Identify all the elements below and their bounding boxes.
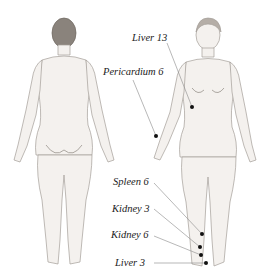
label-kidney-3: Kidney 3 (112, 203, 150, 214)
back-view-figure (14, 18, 114, 264)
dot-kidney-3[interactable] (198, 245, 202, 249)
front-neck (202, 48, 214, 57)
dot-liver-3[interactable] (204, 261, 208, 265)
front-legs (182, 157, 237, 266)
front-view-figure (154, 18, 256, 266)
front-torso (180, 59, 237, 158)
label-spleen-6: Spleen 6 (113, 176, 149, 187)
label-liver-13: Liver 13 (132, 32, 167, 43)
back-legs (38, 155, 93, 264)
dot-pericardium-6[interactable] (154, 134, 158, 138)
label-kidney-6: Kidney 6 (111, 229, 149, 240)
dot-spleen-6[interactable] (200, 232, 204, 236)
label-pericardium-6: Pericardium 6 (103, 66, 164, 77)
label-liver-3: Liver 3 (115, 257, 145, 268)
back-neck (58, 45, 70, 55)
back-torso (36, 56, 93, 155)
back-head (52, 18, 76, 48)
dot-kidney-6[interactable] (199, 253, 203, 257)
leader-line-pericardium-6 (133, 80, 156, 136)
dot-liver-13[interactable] (190, 105, 194, 109)
